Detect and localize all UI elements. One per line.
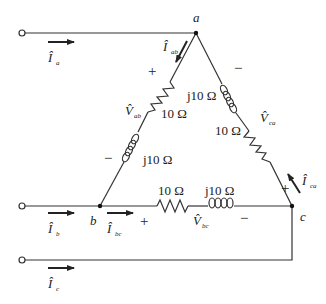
svg-text:Î: Î	[47, 50, 54, 65]
inductor-ca	[219, 84, 238, 114]
node-label-c: c	[300, 209, 306, 224]
impedance-bc-resistor-label: 10 Ω	[158, 183, 184, 198]
label-Vca: V̂ ca	[260, 110, 276, 127]
svg-text:a: a	[56, 59, 60, 67]
minus-ab: −	[104, 150, 112, 166]
line-b	[19, 203, 157, 209]
impedance-ab-resistor-label: 10 Ω	[161, 106, 187, 121]
node-label-b: b	[90, 213, 97, 228]
inductor-ab	[121, 133, 140, 163]
minus-ca: −	[234, 60, 242, 76]
resistor-bc	[157, 200, 188, 212]
node-a-dot	[194, 31, 198, 35]
label-Iab: Î ab	[162, 39, 179, 56]
label-Ic: Î c	[47, 276, 60, 293]
branch-ca	[196, 33, 292, 206]
svg-text:ca: ca	[310, 182, 317, 190]
terminal-b[interactable]	[19, 203, 25, 209]
label-Ib: Î b	[47, 221, 60, 238]
label-Ica: Î ca	[301, 173, 317, 190]
arrow-Ica	[288, 174, 300, 193]
svg-text:Î: Î	[162, 39, 169, 54]
svg-text:ab: ab	[134, 112, 142, 120]
terminal-c[interactable]	[19, 257, 25, 263]
svg-text:bc: bc	[202, 222, 210, 230]
svg-text:ca: ca	[269, 119, 276, 127]
delta-circuit-diagram: a b c Î a Î b Î c Î ab Î bc Î ca V̂ ab V…	[0, 0, 326, 304]
svg-text:c: c	[56, 285, 60, 293]
plus-ca: +	[281, 180, 289, 196]
inductor-bc	[209, 198, 233, 208]
label-Ibc: Î bc	[106, 221, 123, 238]
resistor-ca	[244, 131, 270, 162]
minus-bc: −	[240, 210, 248, 226]
impedance-ca-resistor-label: 10 Ω	[215, 123, 241, 138]
impedance-ab-inductor-label: j10 Ω	[186, 88, 217, 103]
plus-bc: +	[140, 213, 148, 229]
svg-text:Î: Î	[47, 221, 54, 236]
line-a	[19, 30, 196, 36]
svg-text:bc: bc	[115, 230, 123, 238]
node-label-a: a	[193, 10, 200, 25]
line-c	[19, 206, 292, 263]
terminal-a[interactable]	[19, 30, 25, 36]
node-c-dot	[290, 204, 294, 208]
svg-text:Î: Î	[106, 221, 113, 236]
svg-text:Î: Î	[301, 173, 308, 188]
svg-text:Î: Î	[47, 276, 54, 291]
plus-ab: +	[148, 63, 156, 79]
node-b-dot	[98, 204, 102, 208]
impedance-ab-inductor-label-2: j10 Ω	[142, 152, 173, 167]
impedance-bc-inductor-label: j10 Ω	[204, 183, 235, 198]
branch-bc	[157, 198, 292, 212]
label-Ia: Î a	[47, 50, 60, 67]
label-Vab: V̂ ab	[125, 103, 142, 120]
svg-text:b: b	[56, 230, 60, 238]
label-Vbc: V̂ bc	[193, 213, 210, 230]
svg-text:ab: ab	[171, 48, 179, 56]
